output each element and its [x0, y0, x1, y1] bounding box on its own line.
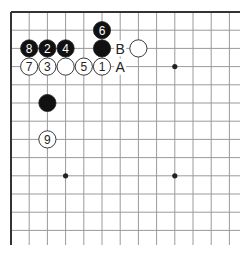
move-number: 3 — [44, 60, 51, 74]
marker-label: B — [116, 41, 125, 57]
white-stone — [57, 58, 74, 75]
black-stone: 2 — [39, 40, 56, 57]
hoshi-point — [172, 64, 177, 69]
move-number: 9 — [44, 133, 51, 147]
black-stone: 4 — [57, 40, 74, 57]
black-stone — [39, 94, 56, 111]
move-number: 4 — [62, 42, 69, 56]
move-number: 1 — [99, 60, 106, 74]
hoshi-point — [63, 173, 68, 178]
move-number: 2 — [44, 42, 51, 56]
black-stone: 8 — [21, 40, 38, 57]
black-stone: 6 — [93, 22, 110, 39]
white-stone: 1 — [93, 58, 110, 75]
move-number: 8 — [26, 42, 33, 56]
hoshi-point — [172, 173, 177, 178]
go-board: 682473519 BA — [0, 0, 247, 254]
white-stone — [130, 40, 147, 57]
white-stone: 7 — [21, 58, 38, 75]
white-stone: 3 — [39, 58, 56, 75]
white-stone: 5 — [75, 58, 92, 75]
marker-label: A — [116, 59, 126, 75]
move-number: 6 — [99, 24, 106, 38]
move-number: 7 — [26, 60, 33, 74]
black-stone — [93, 40, 110, 57]
move-number: 5 — [80, 60, 87, 74]
white-stone: 9 — [39, 131, 56, 148]
